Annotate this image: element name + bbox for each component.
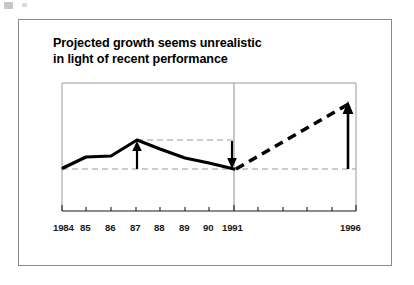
x-tick-label-1991: 1991 (222, 222, 243, 233)
x-tick-label-86: 86 (105, 222, 115, 233)
x-tick-label-85: 85 (80, 222, 90, 233)
chart-plot (0, 0, 414, 285)
x-tick-label-89: 89 (179, 222, 189, 233)
decline-gap-arrow (227, 141, 237, 169)
x-tick-label-90: 90 (203, 222, 213, 233)
growth-gap-arrow (132, 141, 142, 169)
actual-performance-line (63, 140, 234, 169)
figure-root: Projected growth seems unrealistic in li… (0, 0, 414, 285)
projected-growth-line (236, 102, 352, 169)
x-tick-label-87: 87 (130, 222, 140, 233)
x-axis-ticks (62, 205, 356, 211)
x-tick-label-1996: 1996 (340, 222, 361, 233)
x-tick-label-88: 88 (154, 222, 164, 233)
projected-gain-arrow (343, 101, 354, 169)
x-tick-label-1984: 1984 (53, 222, 74, 233)
